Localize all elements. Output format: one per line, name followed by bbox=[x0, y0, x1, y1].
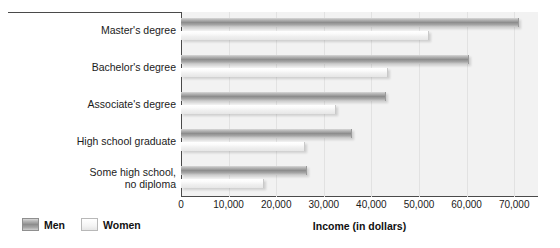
bar-women bbox=[181, 31, 429, 40]
x-tick-label: 20,000 bbox=[261, 199, 292, 210]
bar-men bbox=[181, 129, 352, 138]
bar-men bbox=[181, 92, 386, 101]
x-tick-label: 50,000 bbox=[404, 199, 435, 210]
legend-swatch-women-icon bbox=[81, 218, 98, 231]
category-label: Some high school, no diploma bbox=[6, 166, 176, 190]
gridline bbox=[467, 12, 468, 197]
category-label: High school graduate bbox=[6, 135, 176, 147]
bar-men bbox=[181, 166, 307, 175]
bar-women bbox=[181, 142, 305, 151]
bar-women bbox=[181, 105, 336, 114]
legend-label-women: Women bbox=[103, 219, 141, 231]
x-axis-line bbox=[181, 196, 538, 197]
category-label: Bachelor's degree bbox=[6, 61, 176, 73]
category-label: Master's degree bbox=[6, 24, 176, 36]
legend-item-men: Men bbox=[22, 218, 65, 231]
gridline bbox=[514, 12, 515, 197]
bar-men bbox=[181, 55, 469, 64]
bar-men bbox=[181, 18, 519, 27]
x-tick-label: 10,000 bbox=[213, 199, 244, 210]
x-tick-label: 30,000 bbox=[309, 199, 340, 210]
bar-women bbox=[181, 68, 388, 77]
bar-women bbox=[181, 179, 264, 188]
x-tick-label: 70,000 bbox=[499, 199, 530, 210]
x-tick-label: 60,000 bbox=[451, 199, 482, 210]
chart-legend: Men Women bbox=[22, 218, 141, 231]
top-rule-divider bbox=[8, 12, 182, 13]
x-tick-label: 0 bbox=[178, 199, 184, 210]
x-tick-label: 40,000 bbox=[356, 199, 387, 210]
category-label: Associate's degree bbox=[6, 98, 176, 110]
bar-chart-figure: Master's degreeBachelor's degreeAssociat… bbox=[0, 0, 560, 248]
legend-item-women: Women bbox=[81, 218, 141, 231]
legend-label-men: Men bbox=[44, 219, 65, 231]
x-axis-title: Income (in dollars) bbox=[181, 220, 538, 232]
legend-swatch-men-icon bbox=[22, 218, 39, 231]
